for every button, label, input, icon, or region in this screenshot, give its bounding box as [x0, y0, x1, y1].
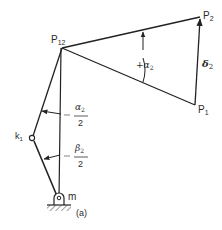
half-alpha-arrow: [42, 111, 61, 114]
line-pole-to-p1: [62, 48, 195, 105]
line-pole-to-ground: [59, 48, 61, 197]
k1-label: k1: [15, 131, 24, 142]
half-beta-denominator: 2: [78, 159, 83, 169]
line-pole-to-p2: [62, 17, 200, 48]
ground-pivot-pin: [57, 196, 61, 200]
displacement-label: δ2: [201, 58, 213, 71]
p1-label: P1: [198, 104, 209, 116]
displacement-vector: [195, 19, 200, 105]
figure-caption: (a): [76, 208, 87, 218]
link-k1-to-m: [34, 141, 57, 196]
half-alpha-denominator: 2: [78, 118, 83, 128]
half-beta-arrow: [44, 155, 60, 159]
linkage-diagram: P12 P2 P1 k1 m +α2 δ2 α2 2 β2 2 (a): [0, 0, 222, 230]
ground-pivot-label: m: [68, 191, 76, 202]
crank-joint-icon: [29, 135, 34, 140]
rotation-angle-label: +α2: [136, 60, 154, 71]
pole-label: P12: [51, 34, 66, 46]
link-pole-to-k1: [33, 48, 62, 136]
half-beta-numerator: β2: [74, 143, 84, 154]
ground-hatch: [47, 205, 71, 211]
half-alpha-numerator: α2: [75, 102, 85, 113]
p2-label: P2: [203, 10, 214, 22]
